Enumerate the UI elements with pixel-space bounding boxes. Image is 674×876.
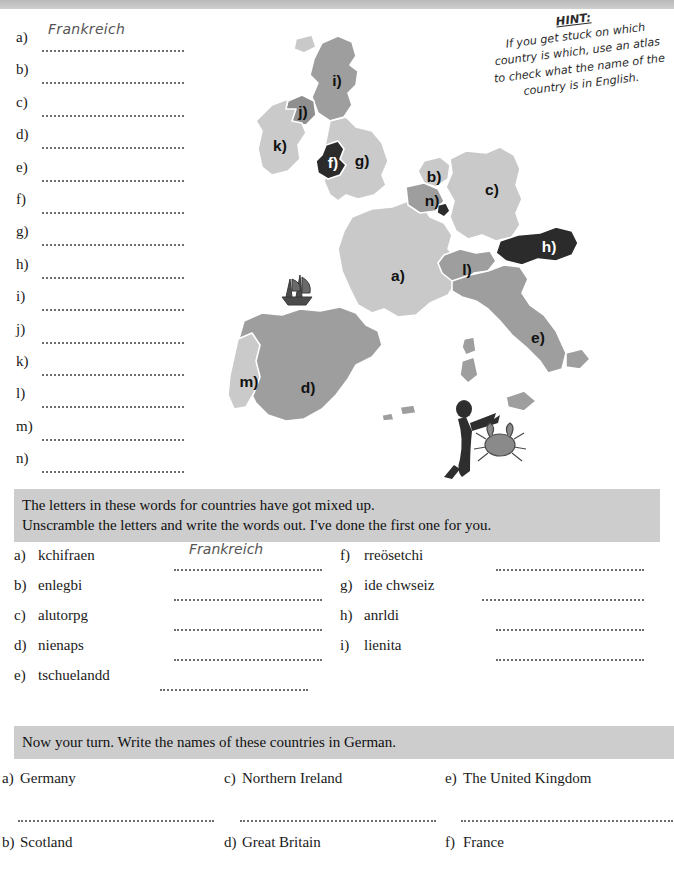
item-label: g) (340, 577, 353, 594)
country-shape-spain (236, 307, 382, 421)
list-item[interactable]: e) (16, 155, 184, 187)
answer-blank-line[interactable] (18, 808, 214, 822)
handwritten-answer: Frankreich (48, 21, 125, 37)
map-label-b: b) (427, 168, 442, 185)
item-label: b) (2, 834, 20, 851)
answer-blank-line[interactable] (42, 394, 184, 408)
country-shape-france (338, 201, 456, 317)
country-name: Great Britain (242, 834, 321, 850)
list-item[interactable]: e) tschuelandd (14, 664, 344, 694)
answer-blank-line[interactable] (42, 103, 184, 117)
list-item[interactable]: h) (16, 252, 184, 284)
scrambled-word: alutorpg (38, 607, 88, 624)
item-label: b) (14, 577, 27, 594)
list-item[interactable]: l) (16, 381, 184, 413)
answer-blank-line[interactable] (42, 168, 184, 182)
list-item[interactable]: f) rreösetchi (340, 544, 670, 574)
list-item[interactable]: d) (16, 122, 184, 154)
list-item[interactable]: b)Scotland (2, 834, 217, 851)
list-item[interactable]: g) ide chwseiz (340, 574, 670, 604)
list-item[interactable]: c) (16, 90, 184, 122)
answer-blank-line[interactable] (496, 617, 644, 631)
list-item[interactable]: d)Great Britain (224, 834, 439, 851)
answer-blank-line[interactable] (160, 677, 308, 691)
item-label: d) (16, 126, 29, 143)
list-item[interactable]: n) (16, 446, 184, 478)
item-label: l) (16, 385, 25, 402)
map-answer-list: a) Frankreich b) c) d) e) f) g) h (16, 25, 184, 478)
map-label-i: i) (332, 72, 341, 89)
scrambled-word: enlegbi (38, 577, 82, 594)
write-in-german-section: Now your turn. Write the names of these … (14, 726, 660, 759)
country-name: Northern Ireland (242, 770, 342, 786)
list-item[interactable]: f) (16, 187, 184, 219)
list-item[interactable]: e)The United Kingdom (445, 770, 660, 822)
list-item[interactable]: k) (16, 349, 184, 381)
answer-blank-line[interactable] (42, 200, 184, 214)
answer-blank-line[interactable] (496, 647, 644, 661)
map-label-n: n) (425, 192, 440, 209)
list-item[interactable]: c)Northern Ireland (224, 770, 439, 822)
answer-blank-line[interactable] (461, 808, 673, 822)
item-label: c) (224, 770, 242, 787)
answer-blank-line[interactable] (42, 265, 184, 279)
map-label-f: f) (328, 154, 338, 171)
scrambled-word: nienaps (38, 637, 84, 654)
item-label: i) (340, 637, 349, 654)
country-name: The United Kingdom (463, 770, 591, 786)
answer-blank-line[interactable] (240, 808, 436, 822)
country-name: Germany (20, 770, 76, 786)
scrambled-word: ide chwseiz (364, 577, 434, 594)
country-name: France (463, 834, 504, 850)
map-label-m: m) (240, 373, 259, 390)
item-label: k) (16, 353, 29, 370)
list-item[interactable]: h) anrldi (340, 604, 670, 634)
country-shape-corsica (462, 337, 476, 355)
answer-blank-line[interactable] (42, 70, 184, 84)
country-shape-denmark (294, 35, 316, 53)
answer-blank-line[interactable] (174, 647, 322, 661)
answer-blank-line[interactable] (496, 557, 644, 571)
scrambled-word: anrldi (364, 607, 399, 624)
item-text: a)Germany (2, 770, 217, 787)
answer-blank-line[interactable] (42, 427, 184, 441)
write-in-german-instruction-band: Now your turn. Write the names of these … (14, 726, 674, 759)
answer-blank-line[interactable] (174, 587, 322, 601)
list-item[interactable]: j) (16, 317, 184, 349)
answer-blank-line[interactable] (174, 557, 322, 571)
answer-blank-line[interactable] (174, 617, 322, 631)
list-item[interactable]: f)France (445, 834, 660, 851)
answer-blank-line[interactable] (42, 135, 184, 149)
answer-blank-line[interactable] (42, 297, 184, 311)
scrambled-word: tschuelandd (38, 667, 110, 684)
list-item[interactable]: d) nienaps (14, 634, 344, 664)
list-item[interactable]: m) (16, 414, 184, 446)
item-text: e)The United Kingdom (445, 770, 660, 787)
map-exercise-section: a) Frankreich b) c) d) e) f) g) h (0, 9, 674, 479)
answer-blank-line[interactable] (42, 330, 184, 344)
answer-blank-line[interactable] (42, 362, 184, 376)
list-item[interactable]: a) Frankreich (16, 25, 184, 57)
item-label: a) (16, 29, 28, 46)
sailing-ship-sketch (282, 275, 312, 305)
item-label: d) (224, 834, 242, 851)
list-item[interactable]: a) kchifraen Frankreich (14, 544, 344, 574)
country-shape-sardinia (460, 357, 478, 383)
scrambled-word: lienita (364, 637, 402, 654)
item-label: e) (14, 667, 26, 684)
list-item[interactable]: g) (16, 219, 184, 251)
answer-blank-line[interactable] (42, 232, 184, 246)
grid-column-1: a)Germany b)Scotland (2, 770, 217, 859)
answer-blank-line[interactable] (42, 459, 184, 473)
scrambled-word: kchifraen (38, 547, 95, 564)
list-item[interactable]: i) (16, 284, 184, 316)
list-item[interactable]: c) alutorpg (14, 604, 344, 634)
answer-blank-line[interactable] (42, 38, 184, 52)
list-item[interactable]: i) lienita (340, 634, 670, 664)
list-item[interactable]: a)Germany (2, 770, 217, 822)
list-item[interactable]: b) enlegbi (14, 574, 344, 604)
list-item[interactable]: b) (16, 57, 184, 89)
answer-blank-line[interactable] (482, 587, 644, 601)
item-label: c) (14, 607, 26, 624)
item-label: d) (14, 637, 27, 654)
